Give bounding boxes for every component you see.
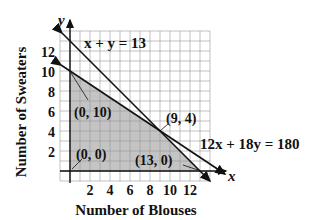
y-axis-label: Number of Sweaters xyxy=(13,47,29,178)
svg-text:8: 8 xyxy=(48,85,55,100)
svg-text:12: 12 xyxy=(183,183,197,198)
point-label-13-0: (13, 0) xyxy=(135,153,173,169)
svg-text:4: 4 xyxy=(48,125,55,140)
svg-text:12: 12 xyxy=(41,45,55,60)
svg-text:2: 2 xyxy=(48,145,55,160)
svg-text:6: 6 xyxy=(48,105,55,120)
y-axis-symbol: y xyxy=(56,12,65,28)
point-label-0-0: (0, 0) xyxy=(76,147,107,163)
svg-text:4: 4 xyxy=(107,183,114,198)
y-tick-labels: 24681012 xyxy=(41,45,55,160)
svg-text:10: 10 xyxy=(41,65,55,80)
point-label-9-4: (9, 4) xyxy=(166,111,197,127)
svg-text:2: 2 xyxy=(87,183,94,198)
x-axis-symbol: x xyxy=(227,168,236,184)
point-label-0-10: (0, 10) xyxy=(74,105,112,121)
x-tick-labels: 24681012 xyxy=(87,183,198,198)
svg-text:10: 10 xyxy=(163,183,177,198)
svg-text:6: 6 xyxy=(127,183,134,198)
eq2-label: 12x + 18y = 180 xyxy=(200,136,300,152)
eq1-label: x + y = 13 xyxy=(84,35,146,51)
svg-text:8: 8 xyxy=(147,183,154,198)
x-axis-label: Number of Blouses xyxy=(75,202,197,218)
chart: y x x + y = 13 12x + 18y = 180 (0, 10) (… xyxy=(0,0,320,220)
